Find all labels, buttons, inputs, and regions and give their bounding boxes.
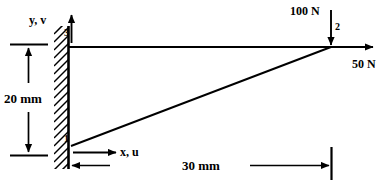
diagonal-member [71,47,331,146]
load-label-100n: 100 N [290,5,320,17]
fixed-wall-support [54,19,69,186]
load-label-50n: 50 N [352,58,376,70]
node-label-1: 1 [64,134,69,144]
dimension-label-20mm: 20 mm [4,92,42,105]
node-label-3: 3 [64,28,69,38]
diagram-canvas: y, v x, u 3 1 2 100 N 50 N 20 mm 30 mm [0,0,389,188]
x-axis-label: x, u [120,146,139,158]
truss-members [69,47,331,146]
y-axis-label: y, v [29,14,46,26]
dimension-label-30mm: 30 mm [182,159,220,172]
node-label-2: 2 [335,22,340,32]
